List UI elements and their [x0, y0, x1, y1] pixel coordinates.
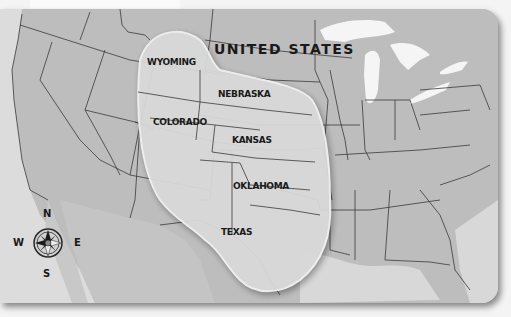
state-label-texas: TEXAS — [221, 227, 252, 237]
compass-west-label: W — [13, 237, 24, 248]
map-panel: UNITED STATES WYOMING NEBRASKA COLORADO … — [0, 9, 498, 303]
state-label-kansas: KANSAS — [232, 135, 272, 145]
country-label-united-states: UNITED STATES — [214, 41, 355, 57]
compass-east-label: E — [74, 237, 81, 248]
state-label-oklahoma: OKLAHOMA — [233, 181, 289, 191]
state-label-colorado: COLORADO — [153, 117, 207, 127]
state-label-nebraska: NEBRASKA — [218, 89, 270, 99]
compass-rose-graphic — [34, 229, 62, 257]
compass-north-label: N — [43, 208, 51, 219]
compass-south-label: S — [43, 268, 50, 279]
state-label-wyoming: WYOMING — [147, 57, 196, 67]
page-background-strip — [30, 0, 180, 9]
